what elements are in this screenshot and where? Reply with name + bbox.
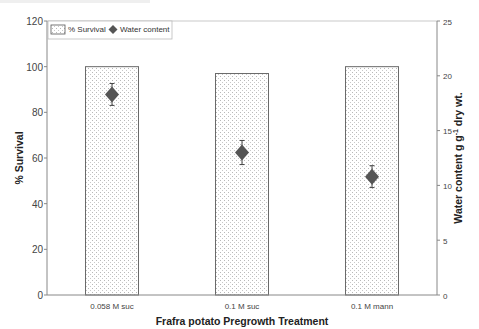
y2-tick-label: 20 <box>443 72 452 81</box>
y2-axis-title: Water content g g-1 dry wt. <box>452 92 464 223</box>
x-axis: 0.058 M suc0.1 M suc0.1 M mann <box>47 295 437 311</box>
legend: % Survival Water content <box>48 21 172 39</box>
x-tick-label: 0.1 M mann <box>351 302 393 311</box>
y-tick-label: 100 <box>26 62 43 73</box>
legend-bar-label: % Survival <box>68 25 106 34</box>
y2-tick-label: 0 <box>443 292 448 301</box>
chart: 020406080100120 0510152025 0.058 M suc0.… <box>0 0 479 329</box>
y2-tick-label: 5 <box>443 237 448 246</box>
y-axis-title: % Survival <box>13 131 25 184</box>
y-tick-label: 40 <box>32 199 44 210</box>
x-tick-label: 0.058 M suc <box>90 302 134 311</box>
x-axis-title: Frafra potato Pregrowth Treatment <box>156 315 329 327</box>
y-tick-label: 80 <box>32 107 44 118</box>
bar-1 <box>216 74 269 295</box>
y-tick-label: 120 <box>26 16 43 27</box>
right-y-axis: 0510152025 <box>437 18 452 301</box>
y-tick-label: 20 <box>32 244 44 255</box>
survival-bars <box>86 67 399 295</box>
y-tick-label: 0 <box>37 290 43 301</box>
legend-marker-label: Water content <box>120 25 170 34</box>
left-y-axis: 020406080100120 <box>26 16 47 301</box>
legend-bar-swatch <box>51 25 65 34</box>
y2-tick-label: 25 <box>443 18 452 27</box>
y-tick-label: 60 <box>32 153 44 164</box>
x-tick-label: 0.1 M suc <box>225 302 260 311</box>
